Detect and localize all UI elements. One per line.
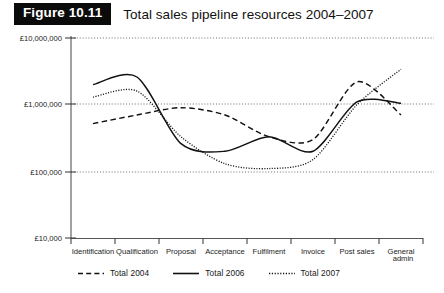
x-tick-label: Acceptance: [205, 247, 245, 256]
x-tick-label: Proposal: [166, 247, 196, 256]
y-tick-label: £10,000,000: [20, 34, 62, 43]
chart-plot-area: £10,000,000 £1,000,000 £100,000 £10,000 …: [0, 28, 444, 258]
y-tick-label: £100,000: [30, 168, 62, 177]
figure-container: Figure 10.11 Total sales pipeline resour…: [0, 0, 444, 293]
gridlines: [71, 38, 434, 172]
legend-swatch-solid: [173, 269, 199, 278]
chart-legend: Total 2004 Total 2006 Total 2007: [0, 262, 444, 284]
legend-item-total-2007: Total 2007: [269, 268, 340, 278]
figure-title-row: Figure 10.11 Total sales pipeline resour…: [0, 0, 444, 28]
figure-number-badge: Figure 10.11: [14, 3, 111, 24]
series-line-total-2004: [93, 82, 401, 143]
legend-item-total-2004: Total 2004: [78, 268, 149, 278]
x-tick-label: Invoice: [301, 247, 325, 256]
legend-label: Total 2007: [301, 268, 340, 278]
series-line-total-2007: [93, 69, 401, 168]
y-tick-label: £10,000: [35, 234, 62, 243]
x-tick-label: Identification: [72, 247, 115, 256]
line-chart-svg: £10,000,000 £1,000,000 £100,000 £10,000 …: [0, 28, 444, 258]
y-tick-label: £1,000,000: [24, 100, 62, 109]
legend-swatch-dotted: [269, 269, 295, 278]
x-tick-label-second-line: admin: [383, 254, 423, 263]
x-tick-labels: Identification Qualification Proposal Ac…: [72, 247, 415, 256]
series-line-total-2006: [93, 74, 401, 152]
x-tick-label-admin: admin: [393, 254, 414, 263]
x-tick-label: Post sales: [339, 247, 374, 256]
legend-swatch-dashed: [78, 269, 104, 278]
y-tick-labels: £10,000,000 £1,000,000 £100,000 £10,000: [20, 34, 62, 243]
legend-item-total-2006: Total 2006: [173, 268, 244, 278]
legend-label: Total 2004: [110, 268, 149, 278]
series-group: [93, 69, 401, 168]
x-tick-label: Qualification: [116, 247, 158, 256]
legend-label: Total 2006: [205, 268, 244, 278]
figure-caption: Total sales pipeline resources 2004–2007: [123, 7, 373, 22]
x-tick-label: Fulfilment: [253, 247, 287, 256]
